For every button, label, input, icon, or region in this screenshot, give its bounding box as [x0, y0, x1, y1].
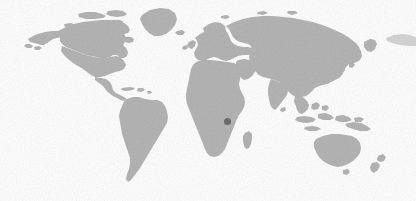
- world-locator-map: World locator map: [0, 0, 416, 201]
- marker-layer: [0, 0, 416, 201]
- highlighted-location-marker: [224, 118, 231, 125]
